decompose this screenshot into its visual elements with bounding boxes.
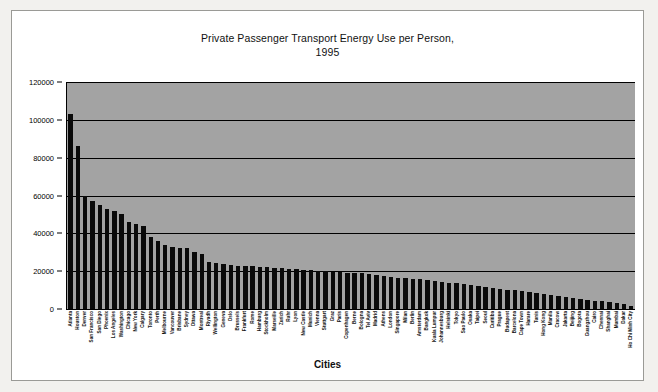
bar (170, 247, 174, 309)
bar-series (67, 82, 635, 309)
bar-column (373, 82, 380, 309)
y-axis-tick-mark (57, 233, 62, 234)
x-axis-tick-label: Cracow (555, 311, 560, 328)
bar-column (424, 82, 431, 309)
x-axis-tick-label: Graz (329, 311, 334, 321)
bar-column (140, 82, 147, 309)
bar (374, 275, 378, 309)
x-axis-tick-label: Cape Town (519, 311, 524, 335)
bar-column (74, 82, 81, 309)
bar-column (198, 82, 205, 309)
x-axis-tick-label: Manila (548, 311, 553, 325)
y-axis-tick-mark (57, 271, 62, 272)
bar-column (402, 82, 409, 309)
y-axis-tick-label: 80000 (33, 153, 54, 162)
bar (272, 268, 276, 309)
x-axis-tick-label: Tokyo (453, 311, 458, 324)
bar (316, 271, 320, 309)
x-axis-tick-label: Milan (402, 311, 407, 323)
bar-column (103, 82, 110, 309)
bar (156, 241, 160, 309)
x-axis-tick-label: Ruhr (286, 311, 291, 322)
bar (229, 265, 233, 309)
x-axis-tick-label: Riyadh (205, 311, 210, 326)
bar (411, 279, 415, 309)
x-axis-tick-label: Jakarta (562, 311, 567, 327)
bar (323, 271, 327, 309)
x-axis-tick-label: San Francisco (89, 311, 94, 342)
bar-column (591, 82, 598, 309)
bar (352, 273, 356, 309)
bar (454, 283, 458, 309)
bar (68, 114, 72, 309)
x-axis-tick-label: Munich (307, 311, 312, 327)
y-axis-tick-mark (57, 157, 62, 158)
bar-column (511, 82, 518, 309)
x-axis-tick-label: Prague (497, 311, 502, 327)
bar-column (540, 82, 547, 309)
y-axis-tick-mark (57, 119, 62, 120)
bar (214, 263, 218, 309)
bar (476, 286, 480, 309)
x-axis-tick-label: Beijing (570, 311, 575, 326)
y-axis-tick-mark (57, 195, 62, 196)
x-axis-tick-label: Atlanta (67, 311, 72, 327)
bar (338, 272, 342, 309)
bar-column (489, 82, 496, 309)
bar (469, 285, 473, 309)
bar (389, 277, 393, 309)
bar-column (147, 82, 154, 309)
x-axis-tick-label: Melbourne (162, 311, 167, 334)
bar (309, 270, 313, 309)
bar (520, 291, 524, 309)
bar-column (358, 82, 365, 309)
bar-column (446, 82, 453, 309)
bar (331, 272, 335, 309)
bar (418, 279, 422, 309)
bar-column (315, 82, 322, 309)
x-axis-tick-label: Bogota (577, 311, 582, 327)
bar-column (344, 82, 351, 309)
x-axis-tick-label: Berlin (409, 311, 414, 324)
bar (287, 269, 291, 309)
bar-column (242, 82, 249, 309)
x-axis-tick-label: Dakar (621, 311, 626, 324)
x-axis-tick-label: Mumbai (613, 311, 618, 328)
bar-column (111, 82, 118, 309)
bar-column (409, 82, 416, 309)
x-axis-tick-label: New Castle (300, 311, 305, 336)
bar-column (562, 82, 569, 309)
bar (360, 273, 364, 309)
x-axis-tick-label: Chennai (599, 311, 604, 329)
bar (134, 224, 138, 309)
bar-column (387, 82, 394, 309)
bar-column (307, 82, 314, 309)
bar (280, 268, 284, 309)
bar (192, 252, 196, 309)
bar (433, 281, 437, 309)
y-axis-tick-label: 40000 (33, 229, 54, 238)
bar-column (584, 82, 591, 309)
x-axis-tick-label: Houston (74, 311, 79, 330)
bar-column (96, 82, 103, 309)
bar-column (438, 82, 445, 309)
x-axis-tick-label: Brussels (235, 311, 240, 330)
bar (571, 298, 575, 309)
x-axis-tick-label: Denver (82, 311, 87, 327)
x-axis-tick-label: Lyon (293, 311, 298, 322)
x-axis-tick-label: Vienna (315, 311, 320, 326)
bar-column (227, 82, 234, 309)
bar-column (606, 82, 613, 309)
bar (301, 270, 305, 309)
chart-title-line-1: Private Passenger Transport Energy Use p… (12, 31, 643, 45)
bar (615, 303, 619, 309)
y-axis-tick-label: 100000 (29, 115, 54, 124)
bar-column (336, 82, 343, 309)
x-axis-tick-label: Vancouver (169, 311, 174, 334)
x-axis-tick-label: Sao Paulo (460, 311, 465, 333)
bar (345, 273, 349, 309)
bar (250, 266, 254, 309)
y-axis-tick-label: 0 (50, 305, 54, 314)
x-axis-tick-label: Ottawa (191, 311, 196, 326)
bar (629, 306, 633, 309)
